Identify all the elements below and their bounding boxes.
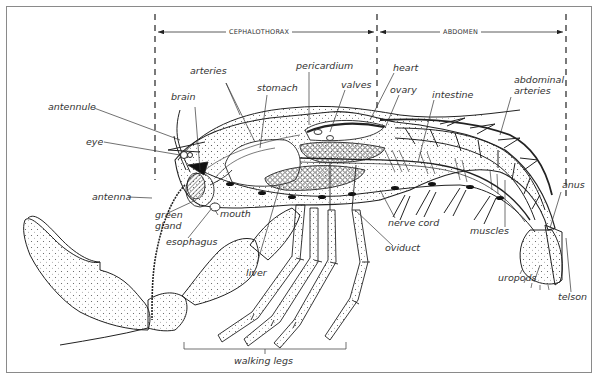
label-heart: heart [393,63,418,73]
label-pericardium: pericardium [296,61,353,71]
leader-abdominal-arteries [500,97,511,135]
label-brain: brain [171,92,195,102]
label-telson: telson [558,292,587,302]
label-liver: liver [246,268,267,278]
leader-anus [550,192,561,228]
leader-eye [104,142,180,155]
label-oviduct: oviduct [385,243,420,253]
leader-antennule [94,108,180,140]
label-ovary: ovary [390,85,417,95]
region-label-cephalothorax: CEPHALOTHORAX [226,28,292,36]
label-mouth: mouth [220,209,251,219]
label-nerve-cord: nerve cord [388,218,439,228]
leader-antenna [128,197,152,198]
label-valves: valves [341,80,372,90]
label-antennule: antennule [48,102,96,112]
label-arteries: arteries [190,66,227,76]
label-muscles: muscles [470,226,509,236]
label-anus: anus [562,180,585,190]
label-esophagus: esophagus [166,237,217,247]
label-abdominal-arteries-line2: arteries [514,86,551,96]
label-intestine: intestine [432,90,473,100]
label-stomach: stomach [257,83,298,93]
brain-organ [187,173,205,199]
label-green-gland-line1: green [155,210,183,220]
label-walking-legs: walking legs [234,356,293,366]
walking-legs-bracket [184,342,346,354]
label-abdominal-arteries-line1: abdominal [514,75,564,85]
label-uropods: uropods [498,273,537,283]
leader-esophagus [188,208,212,238]
label-antenna: antenna [92,192,131,202]
label-eye: eye [86,137,103,147]
region-label-abdomen: ABDOMEN [440,28,481,36]
crayfish-illustration [0,0,598,381]
leader-telson [566,238,571,292]
label-green-gland-line2: gland [155,221,182,231]
eye-organ [181,152,188,159]
